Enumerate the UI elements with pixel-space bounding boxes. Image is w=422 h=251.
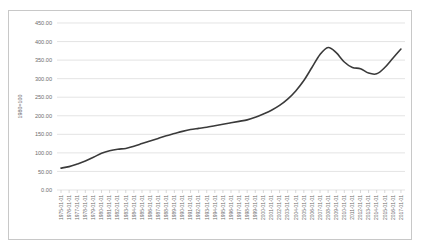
x-axis-tick-label: 1979-01-01 — [91, 195, 96, 220]
line-chart: 0.0050.00100.00150.00200.00250.00300.003… — [9, 11, 413, 241]
x-axis-tick-label: 2000-01-01 — [261, 195, 266, 220]
x-axis-tick-label: 2017-01-01 — [399, 195, 404, 220]
x-axis-tick-label: 1983-01-01 — [124, 195, 129, 220]
x-axis-tick-label: 2001-01-01 — [269, 195, 274, 220]
y-axis-tick-label: 250.00 — [35, 94, 52, 100]
x-axis-tick-label: 1996-01-01 — [229, 195, 234, 220]
y-axis-tick-label: 150.00 — [35, 131, 52, 137]
x-axis-tick-label: 2009-01-01 — [334, 195, 339, 220]
x-axis-tick-label: 1986-01-01 — [148, 195, 153, 220]
x-axis-tick-label: 1988-01-01 — [164, 195, 169, 220]
x-axis-tick-label: 2010-01-01 — [342, 195, 347, 220]
y-axis-tick-label: 400.00 — [35, 39, 52, 45]
x-axis-tick-label: 1993-01-01 — [205, 195, 210, 220]
x-axis-tick-label: 1982-01-01 — [115, 195, 120, 220]
x-axis-tick-label: 1999-01-01 — [253, 195, 258, 220]
y-axis-tick-label: 350.00 — [35, 57, 52, 63]
x-axis-tick-label: 1984-01-01 — [132, 195, 137, 220]
x-axis-tick-label: 1998-01-01 — [245, 195, 250, 220]
x-axis-tick-label: 1977-01-01 — [75, 195, 80, 220]
y-axis-tick-label: 300.00 — [35, 76, 52, 82]
y-axis-title: 1980=100 — [17, 94, 23, 118]
x-axis-tick-label: 2015-01-01 — [383, 195, 388, 220]
x-axis-tick-label: 2016-01-01 — [391, 195, 396, 220]
y-axis-tick-label: 200.00 — [35, 113, 52, 119]
x-axis-tick-label: 1992-01-01 — [196, 195, 201, 220]
x-axis-tick-label: 2002-01-01 — [277, 195, 282, 220]
x-axis-tick-label: 1987-01-01 — [156, 195, 161, 220]
data-series-line — [61, 47, 401, 168]
x-axis-tick-label: 2011-01-01 — [350, 195, 355, 220]
x-axis-tick-label: 2008-01-01 — [326, 195, 331, 220]
x-axis-tick-label: 1997-01-01 — [237, 195, 242, 220]
x-axis-tick-label: 1991-01-01 — [188, 195, 193, 220]
x-axis-tick-label: 1975-01-01 — [59, 195, 64, 220]
x-axis-tick-label: 2004-01-01 — [294, 195, 299, 220]
y-axis-tick-label: 100.00 — [35, 150, 52, 156]
x-axis-tick-label: 1981-01-01 — [107, 195, 112, 220]
x-axis-tick-label: 2003-01-01 — [285, 195, 290, 220]
y-axis-tick-label: 450.00 — [35, 20, 52, 26]
x-axis-tick-label: 1995-01-01 — [221, 195, 226, 220]
x-axis-tick-label: 1976-01-01 — [67, 195, 72, 220]
chart-frame: 0.0050.00100.00150.00200.00250.00300.003… — [8, 10, 412, 240]
y-axis-tick-label: 50.00 — [38, 169, 52, 175]
x-axis-tick-label: 1978-01-01 — [83, 195, 88, 220]
x-axis-tick-label: 2005-01-01 — [302, 195, 307, 220]
x-axis-tick-label: 2013-01-01 — [366, 195, 371, 220]
y-axis-tick-label: 0.00 — [41, 187, 52, 193]
x-axis-tick-label: 2012-01-01 — [358, 195, 363, 220]
x-axis-tick-label: 1990-01-01 — [180, 195, 185, 220]
x-axis-tick-label: 2014-01-01 — [374, 195, 379, 220]
x-axis-tick-label: 2007-01-01 — [318, 195, 323, 220]
x-axis-tick-label: 1980-01-01 — [99, 195, 104, 220]
x-axis-tick-label: 1989-01-01 — [172, 195, 177, 220]
x-axis-tick-label: 2006-01-01 — [310, 195, 315, 220]
x-axis-tick-label: 1994-01-01 — [213, 195, 218, 220]
x-axis-tick-label: 1985-01-01 — [140, 195, 145, 220]
